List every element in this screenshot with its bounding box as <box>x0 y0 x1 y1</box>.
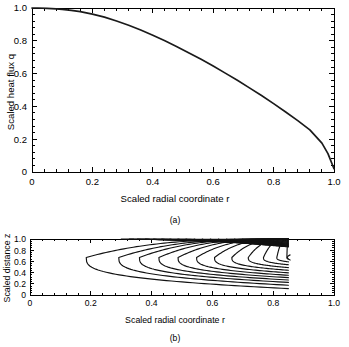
panel-b-yaxis-title: Scaled distance z <box>2 234 12 303</box>
y-tick-label: 0.2 <box>14 134 27 145</box>
panel-a-caption: (a) <box>170 215 181 225</box>
panel-a-plot: 00.20.40.60.81.000.20.40.60.81.0 Scaled … <box>0 0 349 232</box>
panel-b-xaxis-title: Scaled radial coordinate r <box>125 315 225 325</box>
y-tick-label: 0.2 <box>14 279 26 289</box>
panel-b-plot: 00.20.40.60.81.000.20.40.60.81.0 Scaled … <box>0 232 349 347</box>
x-tick-label: 0.8 <box>267 176 280 187</box>
y-tick-label: 0.8 <box>14 246 26 256</box>
y-tick-label: 0 <box>21 290 26 300</box>
y-tick-label: 0.8 <box>14 35 27 46</box>
y-tick-label: 1.0 <box>14 234 26 244</box>
panel-a-yaxis-title: Scaled heat flux q <box>5 54 16 130</box>
streamline-contours <box>86 239 290 289</box>
x-tick-label: 1.0 <box>327 176 340 187</box>
heat-flux-curve <box>32 8 334 169</box>
y-tick-label: 0.6 <box>14 257 26 267</box>
figure-container: 00.20.40.60.81.000.20.40.60.81.0 Scaled … <box>0 0 349 347</box>
panel-b-tick-labels: 00.20.40.60.81.000.20.40.60.81.0 <box>14 234 340 308</box>
panel-b-caption: (b) <box>170 333 181 343</box>
x-tick-label: 0 <box>29 176 34 187</box>
panel-a-ticks <box>32 8 334 172</box>
x-tick-label: 0.4 <box>146 176 159 187</box>
y-tick-label: 0 <box>22 166 27 177</box>
x-tick-label: 0.4 <box>146 298 158 308</box>
panel-a: 00.20.40.60.81.000.20.40.60.81.0 Scaled … <box>0 0 349 232</box>
x-tick-label: 0.6 <box>206 298 218 308</box>
panel-a-tick-labels: 00.20.40.60.81.000.20.40.60.81.0 <box>14 2 341 187</box>
x-tick-label: 0.6 <box>207 176 220 187</box>
x-tick-label: 0.2 <box>85 298 97 308</box>
x-tick-label: 0.2 <box>86 176 99 187</box>
y-tick-label: 0.4 <box>14 268 26 278</box>
panel-a-xaxis-title: Scaled radial coordinate r <box>121 193 231 204</box>
panel-a-axes <box>32 8 334 172</box>
x-tick-label: 1.0 <box>328 298 340 308</box>
panel-b: 00.20.40.60.81.000.20.40.60.81.0 Scaled … <box>0 232 349 347</box>
x-tick-label: 0 <box>28 298 33 308</box>
y-tick-label: 1.0 <box>14 2 27 13</box>
x-tick-label: 0.8 <box>267 298 279 308</box>
